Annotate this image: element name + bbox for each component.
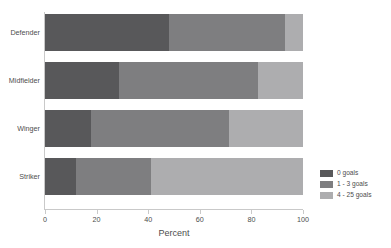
table-row (45, 14, 303, 51)
legend-item-1-3-goals[interactable]: 1 - 3 goals (320, 180, 371, 189)
x-axis-tick (97, 210, 98, 214)
x-axis-title: Percent (45, 229, 303, 238)
bar-segment-midfielder-0-goals[interactable] (45, 62, 119, 99)
legend-label-4-25-goals: 4 - 25 goals (337, 192, 371, 199)
x-axis-tick (45, 210, 46, 214)
bar-segment-striker-1-3-goals[interactable] (76, 158, 151, 195)
legend-item-0-goals[interactable]: 0 goals (320, 169, 371, 178)
table-row (45, 110, 303, 147)
category-label-midfielder: Midfielder (0, 77, 40, 84)
bar-segment-midfielder-4-25-goals[interactable] (258, 62, 303, 99)
x-axis-tick (200, 210, 201, 214)
x-axis-tick-label: 100 (297, 216, 309, 223)
legend-swatch-4-25-goals (320, 192, 333, 199)
bar-segment-defender-4-25-goals[interactable] (285, 14, 303, 51)
x-axis-tick (251, 210, 252, 214)
legend-swatch-0-goals (320, 170, 333, 177)
x-axis-tick-label: 80 (247, 216, 255, 223)
legend-item-4-25-goals[interactable]: 4 - 25 goals (320, 191, 371, 200)
x-axis-tick-label: 40 (144, 216, 152, 223)
legend-swatch-1-3-goals (320, 181, 333, 188)
bar-segment-striker-0-goals[interactable] (45, 158, 76, 195)
bar-segment-defender-0-goals[interactable] (45, 14, 169, 51)
x-axis-tick-label: 0 (43, 216, 47, 223)
bar-segment-winger-4-25-goals[interactable] (229, 110, 303, 147)
bar-segment-winger-1-3-goals[interactable] (91, 110, 229, 147)
x-axis-tick (303, 210, 304, 214)
legend-label-1-3-goals: 1 - 3 goals (337, 181, 368, 188)
category-label-striker: Striker (0, 173, 40, 180)
category-label-defender: Defender (0, 29, 40, 36)
x-axis-tick (148, 210, 149, 214)
bar-segment-winger-0-goals[interactable] (45, 110, 91, 147)
legend: 0 goals 1 - 3 goals 4 - 25 goals (320, 169, 371, 202)
table-row (45, 158, 303, 195)
category-label-winger: Winger (0, 125, 40, 132)
bar-segment-striker-4-25-goals[interactable] (151, 158, 303, 195)
table-row (45, 62, 303, 99)
plot-area (45, 12, 303, 210)
x-axis-tick-label: 60 (196, 216, 204, 223)
x-axis-tick-label: 20 (93, 216, 101, 223)
bar-segment-defender-1-3-goals[interactable] (169, 14, 285, 51)
bar-segment-midfielder-1-3-goals[interactable] (119, 62, 258, 99)
stacked-bar-chart: Defender Midfielder Winger Striker 02040… (0, 0, 391, 248)
legend-label-0-goals: 0 goals (337, 170, 358, 177)
